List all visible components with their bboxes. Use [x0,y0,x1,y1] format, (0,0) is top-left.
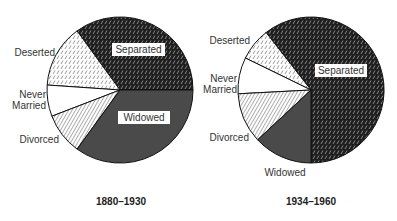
label-widowed: Widowed [123,112,164,123]
label-never: Never [19,89,46,100]
caption-1934-1960: 1934–1960 [286,196,336,207]
caption-1880-1930: 1880–1930 [96,196,146,207]
label-separated: Separated [318,65,364,76]
pie-charts: Separated Widowed Deserted Never Married… [0,0,397,221]
label-widowed: Widowed [264,167,305,178]
label-divorced: Divorced [20,134,59,145]
label-deserted: Deserted [209,35,250,46]
pie-1880-1930: Separated Widowed Deserted Never Married… [12,17,193,207]
label-separated: Separated [115,44,161,55]
label-married: Married [12,100,46,111]
label-divorced: Divorced [210,132,249,143]
pie-1934-1960: Separated Deserted Never Married Divorce… [203,17,384,207]
label-married: Married [203,84,237,95]
label-deserted: Deserted [14,47,55,58]
label-never: Never [210,73,237,84]
